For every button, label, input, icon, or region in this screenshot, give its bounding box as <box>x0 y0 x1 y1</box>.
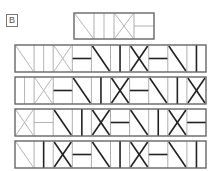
cell-diag <box>92 46 109 71</box>
cell-cross <box>131 46 148 71</box>
cell-cross <box>131 142 148 167</box>
cell-diag <box>54 110 71 135</box>
option-label-b: B <box>6 14 18 27</box>
option-row-1[interactable] <box>14 44 207 73</box>
cell-cross <box>115 14 133 38</box>
cell-diag <box>75 14 93 38</box>
cell-diag <box>92 142 109 167</box>
question-strip <box>73 12 155 40</box>
option-row-4[interactable] <box>14 140 207 169</box>
cell-cross <box>54 46 71 71</box>
cell-diag <box>131 110 148 135</box>
cell-cross <box>35 78 52 103</box>
cell-diag <box>169 46 186 71</box>
cell-diag <box>169 142 186 167</box>
cell-diag <box>16 142 33 167</box>
cell-diag <box>73 78 90 103</box>
cell-cross <box>112 78 129 103</box>
cell-diag <box>150 78 167 103</box>
cell-cross <box>54 142 71 167</box>
option-row-3[interactable] <box>14 108 207 137</box>
cell-cross <box>169 110 186 135</box>
cell-cross <box>92 110 109 135</box>
cell-cross <box>16 110 33 135</box>
cell-diag <box>16 46 33 71</box>
option-row-2[interactable] <box>14 76 207 105</box>
cell-cross <box>188 78 205 103</box>
